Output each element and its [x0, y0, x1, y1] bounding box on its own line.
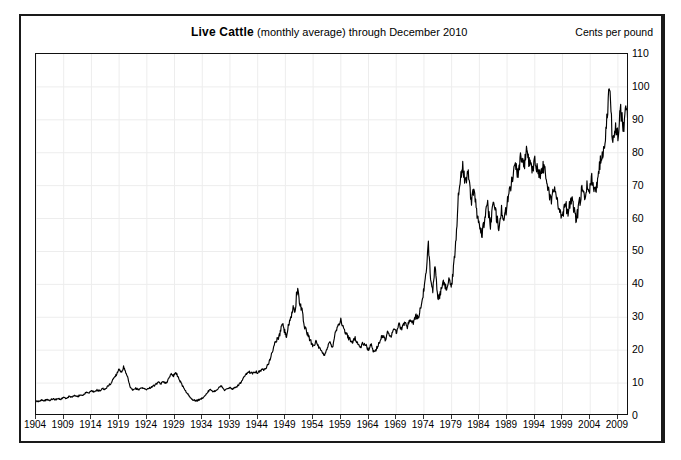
x-tick-mark	[257, 415, 258, 419]
y-tick-label: 70	[632, 179, 644, 191]
x-tick-label: 1934	[190, 419, 212, 430]
x-tick-label: 1949	[273, 419, 295, 430]
x-tick-mark	[118, 415, 119, 419]
x-tick-label: 1914	[79, 419, 101, 430]
x-tick-label: 2009	[606, 419, 628, 430]
plot-area	[35, 53, 628, 415]
y-tick-label: 30	[632, 310, 644, 322]
price-series-line	[36, 76, 628, 401]
x-tick-label: 1994	[523, 419, 545, 430]
x-tick-mark	[146, 415, 147, 419]
x-tick-mark	[368, 415, 369, 419]
x-tick-mark	[201, 415, 202, 419]
x-tick-label: 1919	[107, 419, 129, 430]
chart-title-main: Live Cattle	[191, 25, 254, 39]
x-tick-label: 1909	[52, 419, 74, 430]
x-tick-label: 1989	[495, 419, 517, 430]
x-tick-label: 1929	[162, 419, 184, 430]
x-tick-mark	[423, 415, 424, 419]
x-tick-mark	[284, 415, 285, 419]
x-tick-label: 2004	[578, 419, 600, 430]
x-tick-mark	[174, 415, 175, 419]
x-tick-mark	[534, 415, 535, 419]
x-tick-label: 1954	[301, 419, 323, 430]
x-tick-label: 1964	[356, 419, 378, 430]
price-line-plot	[36, 54, 628, 415]
vertical-gridlines	[36, 54, 618, 415]
y-tick-label: 80	[632, 146, 644, 158]
y-tick-label: 110	[632, 47, 649, 59]
x-axis-tick-labels: 1904190919141919192419291934193919441949…	[0, 419, 681, 437]
x-tick-mark	[478, 415, 479, 419]
x-tick-label: 1944	[246, 419, 268, 430]
chart-title-sub: (monthly average) through December 2010	[257, 26, 467, 38]
x-tick-mark	[561, 415, 562, 419]
x-tick-mark	[35, 415, 36, 419]
x-tick-mark	[395, 415, 396, 419]
x-tick-label: 1969	[384, 419, 406, 430]
chart-title: Live Cattle (monthly average) through De…	[191, 25, 467, 39]
x-tick-label: 1984	[467, 419, 489, 430]
x-tick-mark	[589, 415, 590, 419]
x-tick-mark	[340, 415, 341, 419]
y-tick-label: 90	[632, 113, 644, 125]
x-tick-label: 1999	[550, 419, 572, 430]
x-tick-label: 1979	[440, 419, 462, 430]
y-tick-label: 10	[632, 376, 644, 388]
y-tick-label: 60	[632, 212, 644, 224]
y-tick-label: 40	[632, 277, 644, 289]
horizontal-gridlines	[36, 87, 628, 383]
y-tick-label: 50	[632, 244, 644, 256]
x-tick-label: 1974	[412, 419, 434, 430]
y-tick-label: 20	[632, 343, 644, 355]
y-tick-label: 100	[632, 80, 650, 92]
live-cattle-price-chart: Live Cattle (monthly average) through De…	[0, 0, 681, 460]
x-tick-label: 1904	[24, 419, 46, 430]
x-tick-mark	[229, 415, 230, 419]
x-tick-mark	[617, 415, 618, 419]
x-tick-label: 1924	[135, 419, 157, 430]
chart-header: Live Cattle (monthly average) through De…	[21, 16, 661, 52]
y-axis-tick-labels: 0102030405060708090100110	[632, 0, 672, 460]
x-tick-mark	[63, 415, 64, 419]
x-tick-mark	[312, 415, 313, 419]
x-tick-mark	[451, 415, 452, 419]
x-tick-label: 1959	[329, 419, 351, 430]
x-tick-mark	[90, 415, 91, 419]
x-tick-mark	[506, 415, 507, 419]
x-tick-label: 1939	[218, 419, 240, 430]
